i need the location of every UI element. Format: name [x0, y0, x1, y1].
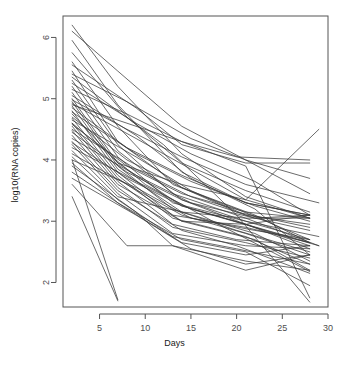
series-line [72, 31, 310, 178]
x-tick-label: 15 [186, 323, 196, 333]
series-line [72, 160, 118, 300]
y-axis: 23456 [41, 35, 56, 285]
series-line [72, 197, 118, 301]
y-axis-title: log10(RNA copies) [10, 105, 20, 225]
line-chart-plot: 51015202530 23456 [0, 0, 349, 369]
x-axis-title: Days [0, 338, 349, 348]
series-line [72, 53, 310, 212]
plot-frame-box [63, 16, 328, 307]
x-tick-label: 30 [323, 323, 333, 333]
y-tick-label: 2 [41, 280, 51, 285]
y-tick-label: 5 [41, 96, 51, 101]
x-tick-label: 10 [140, 323, 150, 333]
series-line [72, 106, 310, 261]
x-axis: 51015202530 [97, 314, 333, 333]
series-line [72, 25, 310, 218]
series-line [72, 41, 310, 216]
x-tick-label: 25 [277, 323, 287, 333]
figure-panel: 51015202530 23456 Days log10(RNA copies) [0, 0, 349, 369]
y-tick-label: 4 [41, 157, 51, 162]
x-tick-label: 20 [232, 323, 242, 333]
x-tick-label: 5 [97, 323, 102, 333]
plot-border [63, 16, 328, 307]
series-lines-group [72, 25, 319, 302]
y-tick-label: 3 [41, 219, 51, 224]
series-line [72, 143, 310, 243]
y-tick-label: 6 [41, 35, 51, 40]
